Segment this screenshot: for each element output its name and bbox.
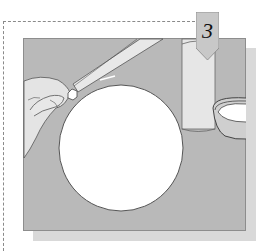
illustration-art: [0, 0, 267, 251]
step-number: 3: [196, 20, 219, 42]
instruction-illustration: 3: [0, 0, 267, 251]
plate-icon: [59, 85, 183, 211]
bowl-icon: [213, 98, 246, 139]
needle-icon: [73, 39, 163, 92]
